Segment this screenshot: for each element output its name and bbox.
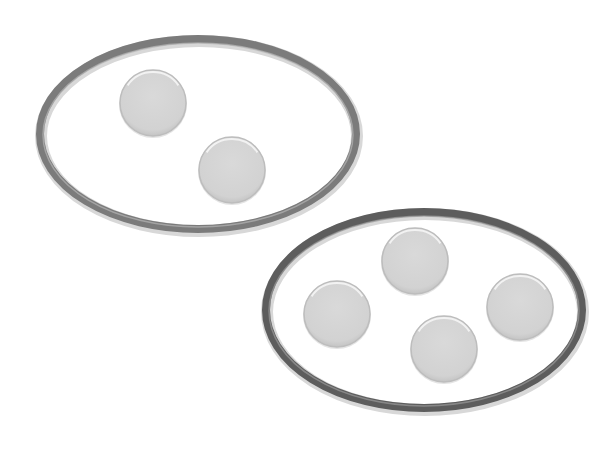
disc-body bbox=[411, 316, 477, 382]
disc-body bbox=[304, 281, 370, 347]
disc-body bbox=[382, 228, 448, 294]
disc bbox=[303, 281, 371, 349]
group-b bbox=[266, 212, 583, 410]
grouping-diagram bbox=[0, 0, 612, 461]
groups-layer bbox=[40, 39, 583, 410]
group-a bbox=[40, 39, 357, 231]
disc bbox=[410, 316, 478, 384]
disc-body bbox=[487, 274, 553, 340]
disc bbox=[198, 137, 266, 205]
disc bbox=[486, 274, 554, 342]
disc-body bbox=[199, 137, 265, 203]
disc-body bbox=[120, 70, 186, 136]
disc bbox=[119, 70, 187, 138]
disc bbox=[381, 228, 449, 296]
set-ellipse bbox=[40, 39, 356, 229]
